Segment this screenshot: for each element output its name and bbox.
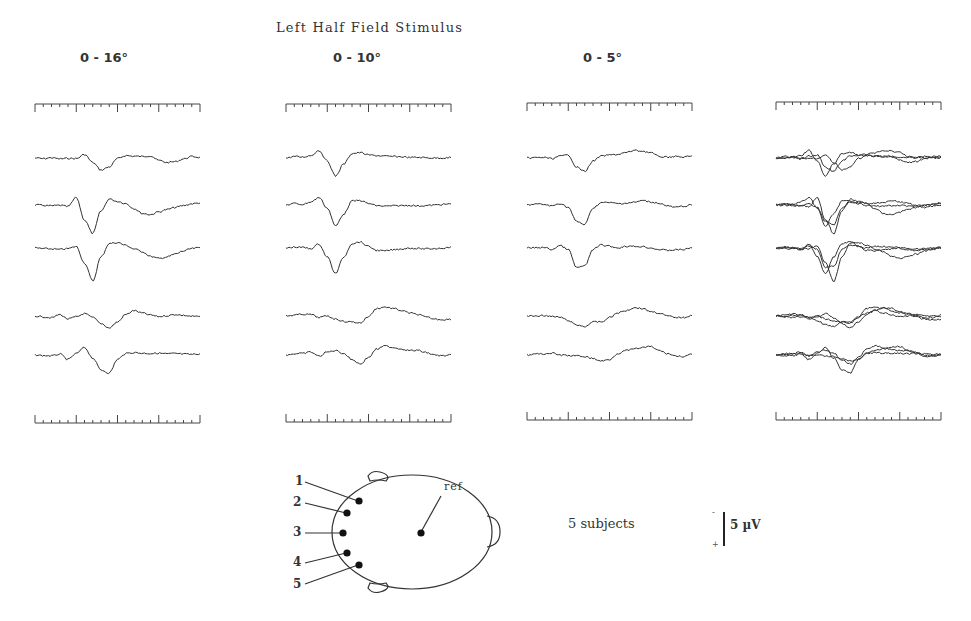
- waveform-trace: [286, 198, 451, 226]
- waveform-trace: [286, 241, 451, 273]
- waveform-trace: [35, 347, 200, 373]
- waveform-plot: [0, 0, 971, 621]
- nose-icon: [487, 516, 500, 547]
- overlay-trace: [776, 150, 941, 177]
- waveform-trace: [527, 150, 692, 172]
- waveform-trace: [35, 154, 200, 170]
- electrode-label-2: 2: [293, 495, 301, 509]
- overlay-trace: [776, 310, 941, 328]
- overlay-trace: [776, 150, 941, 171]
- electrode-4-icon: [343, 549, 350, 556]
- ref-electrode-icon: [417, 529, 424, 536]
- ear-top-icon: [368, 472, 388, 482]
- electrode-label-4: 4: [293, 555, 301, 569]
- waveform-trace: [35, 310, 200, 328]
- electrode-2-icon: [343, 509, 350, 516]
- scale-label: 5 µV: [730, 518, 761, 532]
- overlay-trace: [776, 347, 941, 373]
- scale-minus: -: [712, 508, 715, 517]
- waveform-trace: [527, 346, 692, 361]
- waveform-trace: [286, 307, 451, 323]
- waveform-trace: [527, 308, 692, 327]
- waveform-trace: [527, 200, 692, 225]
- head-diagram: [305, 472, 500, 593]
- ref-label: ref: [444, 480, 463, 493]
- electrode-3-icon: [339, 529, 346, 536]
- waveform-trace: [35, 243, 200, 281]
- electrode-1-icon: [355, 497, 362, 504]
- waveform-trace: [35, 197, 200, 234]
- ear-bottom-icon: [368, 583, 388, 593]
- electrode-dots: [339, 497, 424, 568]
- waveform-trace: [527, 244, 692, 267]
- subjects-label: 5 subjects: [568, 516, 635, 531]
- waveform-trace: [286, 346, 451, 365]
- waveform-trace: [286, 151, 451, 177]
- electrode-label-5: 5: [293, 577, 301, 591]
- head-outline: [332, 475, 492, 589]
- scale-plus: +: [712, 540, 719, 549]
- electrode-label-3: 3: [293, 525, 301, 539]
- overlay-trace: [776, 345, 941, 364]
- time-axes: [35, 102, 941, 423]
- waveform-traces: [35, 150, 941, 374]
- electrode-label-1: 1: [295, 474, 303, 488]
- electrode-5-icon: [355, 561, 362, 568]
- overlay-trace: [776, 242, 941, 274]
